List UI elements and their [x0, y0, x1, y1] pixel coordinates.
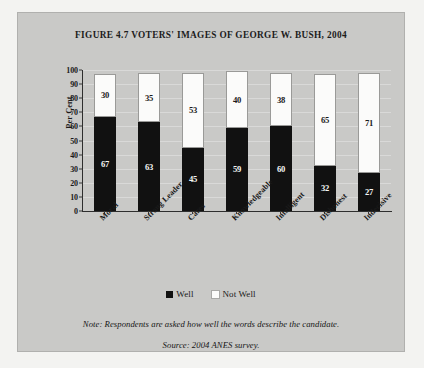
bar-group[interactable]: 3563 — [138, 70, 160, 211]
y-axis-tick-label: 10 — [58, 192, 78, 201]
y-axis-ticks: 0102030405060708090100 — [58, 70, 78, 211]
y-axis-tick-label: 0 — [58, 207, 78, 216]
bar-group[interactable]: 7127 — [358, 70, 380, 211]
bar-value-label-not-well: 35 — [138, 93, 160, 103]
chart-title: FIGURE 4.7 VOTERS' IMAGES OF GEORGE W. B… — [18, 30, 404, 40]
y-axis-tick-label: 60 — [58, 122, 78, 131]
bar-value-label-not-well: 38 — [270, 95, 292, 105]
bar-value-label-not-well: 65 — [314, 115, 336, 125]
legend-item[interactable]: Well — [166, 289, 193, 299]
figure-note: Note: Respondents are asked how well the… — [18, 319, 404, 329]
bar-group[interactable]: 3860 — [270, 70, 292, 211]
y-axis-tick-label: 40 — [58, 150, 78, 159]
bar-value-label-well: 60 — [270, 164, 292, 174]
figure-source: Source: 2004 ANES survey. — [18, 340, 404, 350]
y-axis-tick-label: 70 — [58, 108, 78, 117]
bar-value-label-well: 32 — [314, 183, 336, 193]
bar-value-label-not-well: 53 — [182, 105, 204, 115]
legend-label: Well — [176, 289, 193, 299]
figure-screenshot: FIGURE 4.7 VOTERS' IMAGES OF GEORGE W. B… — [0, 0, 424, 368]
bar-value-label-not-well: 71 — [358, 118, 380, 128]
bar-value-label-not-well: 40 — [226, 95, 248, 105]
bar-group[interactable]: 6532 — [314, 70, 336, 211]
y-axis-tick-label: 20 — [58, 178, 78, 187]
y-axis-tick-label: 80 — [58, 94, 78, 103]
plot-area: 3067356353454059386065327127 — [82, 70, 391, 211]
bar-value-label-well: 67 — [94, 159, 116, 169]
legend-label: Not Well — [223, 289, 256, 299]
y-axis-tick-label: 90 — [58, 80, 78, 89]
legend-swatch-icon — [211, 290, 220, 299]
bar-group[interactable]: 5345 — [182, 70, 204, 211]
bar-value-label-well: 63 — [138, 162, 160, 172]
bar-group[interactable]: 3067 — [94, 70, 116, 211]
legend-item[interactable]: Not Well — [211, 289, 256, 299]
figure-panel: FIGURE 4.7 VOTERS' IMAGES OF GEORGE W. B… — [17, 12, 405, 352]
bar-value-label-not-well: 30 — [94, 90, 116, 100]
bar-value-label-well: 45 — [182, 174, 204, 184]
bar-value-label-well: 27 — [358, 187, 380, 197]
chart-legend: WellNot Well — [18, 289, 404, 299]
plot-container: Per Cent 0102030405060708090100 30673563… — [58, 58, 390, 213]
bar-group[interactable]: 4059 — [226, 70, 248, 211]
y-axis-tick-label: 30 — [58, 164, 78, 173]
y-axis-tick-label: 100 — [58, 66, 78, 75]
bar-value-label-well: 59 — [226, 164, 248, 174]
y-axis-tick-label: 50 — [58, 136, 78, 145]
legend-swatch-icon — [166, 291, 173, 298]
